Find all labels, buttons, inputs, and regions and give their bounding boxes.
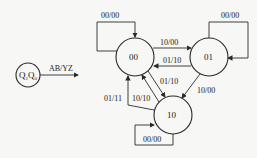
edge-10-00-a-label: 10/10 — [132, 94, 150, 103]
legend-arrow-label: AB/YZ — [49, 64, 73, 73]
edge-00-01-label: 10/00 — [160, 38, 178, 47]
state-10: 10 — [154, 96, 192, 134]
state-10-label: 10 — [167, 110, 177, 120]
state-01-label: 01 — [204, 52, 213, 62]
edge-00-00-label: 00/00 — [101, 11, 119, 20]
edge-10-00-b-label: 01/11 — [104, 94, 122, 103]
diagram-canvas: Q1Q0 AB/YZ 00 01 10 00/00 00/00 00/00 10… — [0, 0, 257, 158]
edge-01-00-label: 01/10 — [163, 56, 181, 65]
edge-10-10-label: 00/00 — [143, 135, 161, 144]
edge-10-00-b — [128, 76, 154, 110]
edge-01-01-label: 00/00 — [221, 11, 239, 20]
edge-00-10-label: 01/10 — [160, 77, 178, 86]
state-diagram: Q1Q0 AB/YZ 00 01 10 00/00 00/00 00/00 10… — [0, 0, 257, 158]
state-01: 01 — [190, 38, 228, 76]
state-00: 00 — [116, 38, 154, 76]
legend: Q1Q0 AB/YZ — [16, 63, 78, 87]
edge-01-10-label: 10/00 — [197, 86, 215, 95]
state-00-label: 00 — [129, 52, 139, 62]
